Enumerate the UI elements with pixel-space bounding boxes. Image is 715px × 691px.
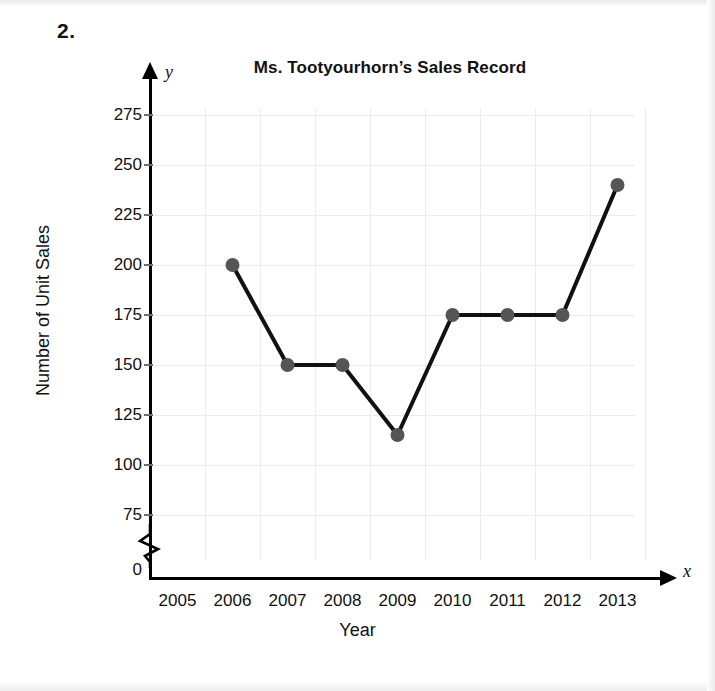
- gridline-horizontal: [150, 115, 635, 116]
- gridline-horizontal: [150, 365, 635, 366]
- worksheet-page: 2. Ms. Tootyourhorn’s Sales Record y x 2…: [0, 0, 715, 691]
- gridline-horizontal: [150, 415, 635, 416]
- y-tick-label: 0: [96, 561, 142, 578]
- y-tick-mark: [144, 264, 153, 266]
- y-tick-mark: [144, 314, 153, 316]
- y-tick-label: 75: [96, 506, 142, 523]
- gridline-vertical: [645, 108, 646, 560]
- chart-title: Ms. Tootyourhorn’s Sales Record: [225, 58, 555, 78]
- gridline-horizontal: [150, 465, 635, 466]
- gridline-vertical: [260, 108, 261, 560]
- x-axis-line: [150, 577, 662, 580]
- y-tick-label: 275: [96, 106, 142, 123]
- gridline-horizontal: [150, 315, 635, 316]
- gridline-vertical: [480, 108, 481, 560]
- y-tick-label: 125: [96, 406, 142, 423]
- y-axis-line: [149, 76, 152, 580]
- y-tick-label: 225: [96, 206, 142, 223]
- gridline-vertical: [590, 108, 591, 560]
- y-tick-label: 250: [96, 156, 142, 173]
- y-tick-mark: [144, 214, 153, 216]
- scan-edge-right: [707, 0, 715, 691]
- gridline-horizontal: [150, 165, 635, 166]
- gridline-vertical: [370, 108, 371, 560]
- y-tick-label: 150: [96, 356, 142, 373]
- y-axis-tick-labels: 275250225200175150125100750: [86, 0, 142, 691]
- x-axis-variable-label: x: [683, 561, 691, 582]
- x-axis-arrow-icon: [660, 570, 677, 586]
- y-tick-label: 200: [96, 256, 142, 273]
- y-tick-label: 100: [96, 456, 142, 473]
- gridline-horizontal: [150, 515, 635, 516]
- gridline-vertical: [205, 108, 206, 560]
- gridline-horizontal: [150, 265, 635, 266]
- gridline-vertical: [535, 108, 536, 560]
- plot-grid-area: [150, 108, 645, 578]
- y-tick-mark: [144, 464, 153, 466]
- y-tick-label: 175: [96, 306, 142, 323]
- gridline-horizontal: [150, 215, 635, 216]
- x-tick-label: 2013: [583, 592, 653, 610]
- y-tick-mark: [144, 364, 153, 366]
- gridline-vertical: [315, 108, 316, 560]
- y-tick-mark: [144, 164, 153, 166]
- y-tick-mark: [144, 114, 153, 116]
- x-axis-title: Year: [0, 620, 715, 641]
- y-tick-mark: [144, 514, 153, 516]
- gridline-vertical: [425, 108, 426, 560]
- y-axis-variable-label: y: [165, 62, 173, 83]
- y-tick-mark: [144, 414, 153, 416]
- y-axis-title: Number of Unit Sales: [33, 181, 54, 441]
- y-axis-arrow-icon: [142, 62, 158, 79]
- problem-number: 2.: [57, 19, 76, 43]
